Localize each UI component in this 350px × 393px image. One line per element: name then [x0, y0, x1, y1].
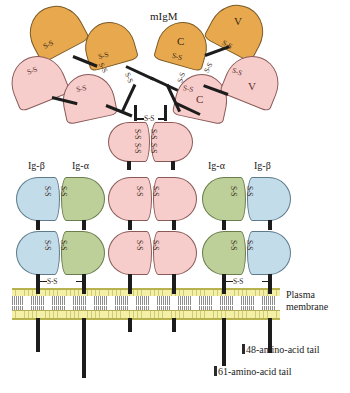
disulfide-label: S-S — [135, 186, 144, 196]
transmembrane-stalk — [172, 274, 176, 294]
disulfide-label: S-S — [59, 240, 68, 250]
cytoplasmic-tail-48 — [36, 318, 40, 352]
ig-alpha-domain-left-row1 — [61, 177, 105, 221]
transmembrane-stalk — [222, 274, 226, 294]
chain-connector — [172, 220, 176, 230]
chain-connector — [82, 220, 86, 230]
plasma-membrane-label-line1: Plasma — [286, 289, 315, 301]
ig-alpha-domain-right-row1 — [202, 177, 246, 221]
chain-connector — [204, 45, 229, 57]
disulfide-label: S-S — [151, 240, 160, 250]
disulfide-label: S-S — [47, 277, 57, 286]
constant-region-label: C — [177, 35, 184, 47]
cytoplasmic-tail-61 — [82, 318, 86, 378]
ig-beta-label-left: Ig-β — [28, 160, 45, 171]
ig-beta-domain-left-row2 — [16, 231, 60, 275]
heavy-chain-domain-left-a — [108, 122, 150, 162]
chain-connector — [36, 220, 40, 230]
disulfide-label: S-S — [59, 186, 68, 196]
variable-region-label: V — [234, 15, 242, 27]
ig-beta-label-right: Ig-β — [254, 160, 271, 171]
heavy-chain-domain-left-row1 — [108, 177, 152, 221]
figure-title: mIgM — [150, 10, 178, 22]
chain-connector — [128, 220, 132, 230]
disulfide-label: S-S — [151, 186, 160, 196]
disulfide-label: S-S — [43, 240, 52, 250]
heavy-chain-domain-left-row2 — [108, 231, 152, 275]
heavy-chain-domain-right-row2 — [153, 231, 197, 275]
disulfide-label: S-S — [229, 186, 238, 196]
chain-connector — [171, 161, 175, 170]
disulfide-label: S-S — [233, 277, 243, 286]
disulfide-bond-line — [137, 118, 144, 120]
transmembrane-stalk — [128, 274, 132, 294]
disulfide-bond-line — [40, 281, 47, 282]
disulfide-label: S-S — [182, 83, 194, 94]
disulfide-label: S-S — [229, 240, 238, 250]
disulfide-label: S-S — [135, 240, 144, 250]
disulfide-label: S-S — [202, 61, 215, 74]
chain-connector — [150, 76, 178, 91]
heavy-chain-domain-orange-1 — [20, 0, 90, 64]
ig-alpha-label-right: Ig-α — [208, 160, 225, 171]
disulfide-bond-line — [226, 281, 233, 282]
variable-region-label: V — [248, 80, 256, 92]
transmembrane-stalk — [268, 274, 272, 294]
plasma-membrane-label-line2: membrane — [286, 301, 328, 313]
ig-beta-domain-right-row2 — [247, 231, 291, 275]
transmembrane-stalk — [36, 274, 40, 294]
chain-connector — [268, 220, 272, 230]
ig-beta-domain-right-row1 — [247, 177, 291, 221]
transmembrane-stalk — [82, 274, 86, 294]
ig-alpha-domain-left-row2 — [61, 231, 105, 275]
tail61-leader — [214, 366, 217, 376]
membrane-outer-leaflet-tails — [12, 296, 280, 305]
disulfide-label: S-S — [133, 129, 142, 139]
cytoplasmic-tail-61 — [222, 318, 226, 366]
cytoplasmic-tail-48 — [268, 318, 272, 353]
heavy-chain-domain-right-row1 — [153, 177, 197, 221]
disulfide-label: S-S — [245, 186, 254, 196]
disulfide-label: S-S — [123, 71, 135, 84]
light-chain-domain-pink-2 — [58, 69, 118, 125]
tail48-leader — [242, 344, 245, 354]
constant-region-label: C — [196, 93, 203, 105]
disulfide-label: S-S — [245, 240, 254, 250]
tail48-label: 48-amino-acid tail — [246, 344, 320, 355]
heavy-chain-tail — [172, 318, 176, 332]
tail61-label: 61-amino-acid tail — [218, 366, 292, 377]
heavy-chain-tail — [128, 318, 132, 332]
ig-alpha-label-left: Ig-α — [72, 160, 89, 171]
chain-connector — [127, 161, 131, 170]
membrane-inner-leaflet-heads — [12, 310, 280, 319]
heavy-chain-domain-right-a — [151, 122, 193, 162]
disulfide-label: S-S — [149, 129, 158, 139]
light-chain-domain-pink-1 — [3, 48, 71, 113]
disulfide-bond-line — [158, 118, 165, 120]
ig-alpha-domain-right-row2 — [202, 231, 246, 275]
ig-beta-domain-left-row1 — [16, 177, 60, 221]
disulfide-label: S-S — [149, 143, 158, 153]
plasma-membrane — [12, 288, 280, 320]
disulfide-label: S-S — [133, 143, 142, 153]
disulfide-label: S-S — [43, 186, 52, 196]
figure-canvas: mIgM S-S S-S C S-S V S-S S-S S-S C S-S V… — [0, 0, 350, 393]
chain-connector — [222, 220, 226, 230]
